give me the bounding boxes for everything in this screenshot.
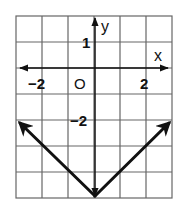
grid [16,16,172,198]
origin-label: O [74,75,86,92]
y-tick-1: 1 [82,34,90,51]
x-tick-neg2: −2 [28,75,45,92]
y-axis-label: y [101,18,109,35]
x-tick-2: 2 [140,75,148,92]
x-axis-label: x [154,47,162,64]
y-tick-neg2: −2 [70,112,87,129]
coordinate-plane: y x 1 −2 O 2 −2 [0,0,174,207]
